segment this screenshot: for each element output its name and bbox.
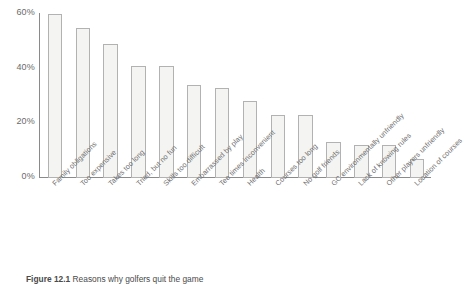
x-axis-category-labels: Family obligationsToo expensiveTakes too… — [0, 178, 439, 268]
figure-caption-text: Reasons why golfers quit the game — [73, 274, 204, 284]
bar — [243, 101, 257, 178]
bar-series — [41, 0, 431, 178]
figure-caption-label: Figure 12.1 — [26, 274, 70, 284]
y-axis-tick-label: 20% — [16, 117, 35, 126]
y-axis: 0%20%40%60% — [0, 0, 38, 200]
y-axis-tick-label: 60% — [16, 8, 35, 17]
bar — [48, 14, 62, 178]
y-axis-tick-label: 40% — [16, 63, 35, 72]
bar — [271, 115, 285, 178]
figure-caption: Figure 12.1 Reasons why golfers quit the… — [26, 274, 426, 284]
